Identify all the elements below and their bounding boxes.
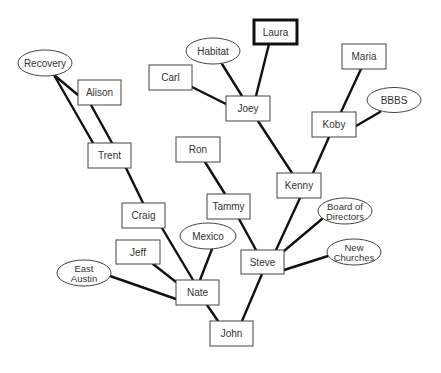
edge-trent-craig: [126, 168, 143, 203]
edge-nate-john: [207, 305, 218, 321]
node-label: Steve: [250, 257, 276, 268]
edge-maria-koby: [341, 69, 361, 112]
node-label: Churches: [334, 252, 375, 263]
node-mexico: Mexico: [180, 223, 236, 249]
node-tammy: Tammy: [207, 194, 250, 219]
node-carl: Carl: [149, 65, 192, 90]
node-alison: Alison: [78, 80, 121, 105]
node-jeff: Jeff: [116, 240, 160, 264]
edge-carl-joey: [192, 87, 226, 104]
node-label: Kenny: [285, 180, 313, 191]
node-label: Maria: [351, 51, 376, 62]
node-label: Directors: [326, 211, 364, 222]
node-steve: Steve: [241, 250, 284, 274]
node-kenny: Kenny: [277, 173, 321, 198]
node-nate: Nate: [176, 280, 219, 305]
edge-new_churches-steve: [284, 256, 328, 270]
edge-ron-tammy: [205, 162, 225, 194]
edge-habitat-joey: [222, 64, 242, 96]
node-trent: Trent: [88, 143, 131, 168]
node-recovery: Recovery: [18, 50, 72, 76]
edge-kenny-steve: [276, 198, 300, 250]
node-label: Jeff: [130, 247, 146, 258]
edge-east_austin-nate: [110, 276, 176, 299]
node-maria: Maria: [342, 44, 386, 69]
node-label: Nate: [187, 287, 209, 298]
node-label: Mexico: [192, 231, 224, 242]
node-label: Craig: [132, 210, 156, 221]
node-label: John: [221, 328, 243, 339]
node-label: Ron: [189, 144, 207, 155]
edge-steve-john: [242, 274, 262, 321]
node-label: Carl: [161, 72, 179, 83]
node-label: Koby: [323, 119, 346, 130]
node-john: John: [210, 321, 253, 346]
node-bbbs: BBBS: [367, 88, 421, 113]
node-ron: Ron: [176, 137, 220, 162]
node-koby: Koby: [312, 112, 356, 137]
node-habitat: Habitat: [186, 38, 240, 64]
edge-laura-joey: [256, 44, 269, 96]
edge-tammy-steve: [239, 219, 256, 250]
node-laura: Laura: [254, 20, 297, 44]
edge-jeff-nate: [153, 264, 176, 282]
edge-board-steve: [284, 219, 322, 251]
node-label: BBBS: [381, 95, 408, 106]
node-label: Alison: [86, 87, 113, 98]
edge-alison-trent: [91, 105, 112, 143]
node-label: Tammy: [212, 201, 244, 212]
node-joey: Joey: [226, 96, 270, 121]
node-craig: Craig: [122, 203, 165, 228]
node-label: Austin: [71, 273, 97, 284]
node-label: Trent: [98, 150, 121, 161]
edge-bbbs-koby: [356, 112, 380, 126]
edge-koby-kenny: [313, 137, 329, 173]
edge-joey-kenny: [258, 121, 292, 173]
node-board: Board ofDirectors: [318, 198, 372, 224]
node-label: Joey: [237, 103, 258, 114]
node-label: Recovery: [24, 58, 66, 69]
node-label: Habitat: [197, 46, 229, 57]
node-east-austin: EastAustin: [57, 260, 111, 286]
relationship-tree-diagram: LauraHabitatCarlJoeyMariaBBBSKobyKennyRe…: [0, 0, 441, 373]
node-new-churches: NewChurches: [327, 239, 381, 265]
edge-mexico-nate: [200, 249, 212, 280]
edge-recovery-alison: [54, 75, 78, 95]
node-label: Laura: [263, 27, 289, 38]
